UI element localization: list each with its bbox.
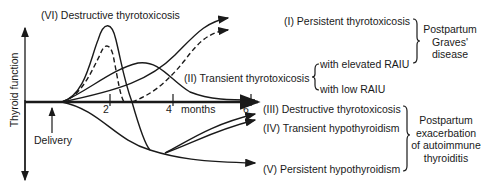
label-iii: (III) Destructive thyrotoxicosis [263,103,401,115]
brace-transient [312,64,319,90]
label-ii-low: with low RAIU [320,83,385,95]
delivery-label: Delivery [34,134,72,146]
group-autoimmune: Postpartum exacerbation of autoimmune th… [405,114,486,164]
curve-v [62,102,255,163]
label-ii-elevated: with elevated RAIU [320,58,409,70]
bracket-graves [413,19,420,63]
x-axis-unit: months [181,103,215,115]
label-ii: (II) Transient thyrotoxicosis [184,72,309,84]
label-vi: (VI) Destructive thyrotoxicosis [41,9,180,21]
curve-iv [165,120,255,153]
group-graves: Postpartum Graves' disease [420,23,480,61]
curve-ii-dashed [132,30,228,102]
label-v: (V) Persistent hypothyroidism [263,163,400,175]
tick-6: 6 [243,103,249,115]
tick-4: 4 [166,103,172,115]
label-i: (I) Persistent thyrotoxicosis [284,15,410,27]
tick-2: 2 [103,103,109,115]
curve-vi [62,26,150,150]
label-iv: (IV) Transient hypothyroidism [263,122,400,134]
y-axis-label: Thyroid function [8,50,20,130]
